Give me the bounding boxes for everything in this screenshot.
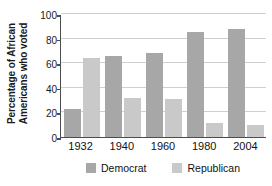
legend-swatch-democrat	[86, 163, 96, 173]
y-axis-tick-label: 100	[35, 10, 57, 21]
x-axis-tick-labels: 19321940196019802004	[60, 140, 266, 154]
y-axis-tick-label: 40	[35, 83, 57, 94]
y-axis-tick-label: 20	[35, 108, 57, 119]
chart-screenshot: Percentage of African Americans who vote…	[0, 0, 272, 186]
y-axis-title: Percentage of African Americans who vote…	[0, 0, 36, 146]
x-axis-tick-label: 1980	[192, 140, 216, 152]
bar-democrat-1940	[105, 56, 122, 137]
bar-republican-1980	[206, 123, 223, 137]
bar-republican-1960	[165, 99, 182, 137]
bar-democrat-1980	[187, 32, 204, 137]
bar-republican-2004	[247, 125, 264, 137]
legend-swatch-republican	[172, 163, 182, 173]
y-axis-tick-label: 60	[35, 59, 57, 70]
x-axis-tick-label: 1960	[151, 140, 175, 152]
legend-label-republican: Republican	[187, 162, 240, 174]
bar-republican-1932	[83, 58, 100, 137]
y-axis-tick-label: 0	[35, 133, 57, 144]
x-axis-tick-label: 2004	[233, 140, 257, 152]
legend-item-republican: Republican	[172, 162, 240, 174]
bar-democrat-2004	[228, 29, 245, 137]
legend-label-democrat: Democrat	[101, 162, 147, 174]
bar-democrat-1960	[146, 53, 163, 137]
x-axis-tick-label: 1940	[110, 140, 134, 152]
legend-item-democrat: Democrat	[86, 162, 147, 174]
y-axis-tick-labels: 020406080100	[33, 15, 57, 138]
plot-area	[60, 15, 266, 138]
bar-series-group	[61, 15, 266, 137]
bar-democrat-1932	[64, 109, 81, 137]
chart-legend: DemocratRepublican	[60, 160, 266, 176]
x-axis-tick-label: 1932	[68, 140, 92, 152]
y-axis-tick-label: 80	[35, 34, 57, 45]
bar-republican-1940	[124, 98, 141, 137]
y-axis-title-line-2: Americans who voted	[18, 22, 30, 123]
y-axis-title-line-1: Percentage of African	[7, 22, 19, 123]
gridline	[61, 13, 266, 14]
